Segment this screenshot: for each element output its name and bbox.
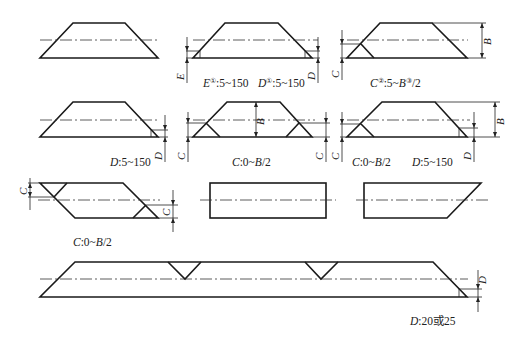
figure-5-trapezoid-double-V: [186, 102, 330, 162]
figure-2-trapezoid-E-D: [185, 23, 320, 83]
figure-7-parallelogram-double-V: [28, 178, 178, 232]
dim-D-fig10: D: [476, 276, 488, 285]
weld-groove-diagram: E D C B D C B C C D B C C D E①:5~150 D①:…: [0, 0, 510, 344]
caption-fig2-D: D①:5~150: [257, 77, 305, 89]
dim-C-fig7-right: C: [160, 208, 172, 216]
captions: E①:5~150 D①:5~150 C②:5~B③/2 D:5~150 C:0~…: [73, 77, 456, 327]
figure-8-rectangle: [200, 183, 336, 218]
figure-9-single-bevel: [356, 183, 490, 218]
caption-fig2-E: E①:5~150: [202, 77, 249, 89]
figure-6-trapezoid-V-D: [340, 102, 500, 162]
caption-fig6-D: D:5~150: [411, 156, 453, 168]
caption-fig5: C:0~B/2: [232, 156, 271, 168]
caption-fig7: C:0~B/2: [73, 236, 112, 248]
dim-C-fig5-left: C: [175, 152, 187, 160]
dim-C-fig3: C: [329, 70, 341, 78]
figure-3-trapezoid-C-B: [340, 23, 486, 80]
figure-10-long-strip: [40, 262, 482, 312]
dim-C-fig7-left: C: [17, 187, 29, 195]
caption-fig10: D:20或25: [409, 315, 456, 327]
caption-fig6-C: C:0~B/2: [352, 156, 391, 168]
caption-fig3: C②:5~B③/2: [370, 77, 421, 89]
dim-D-fig4: D: [152, 152, 164, 161]
caption-fig4: D:5~150: [109, 156, 151, 168]
figure-4-trapezoid-D: [40, 102, 168, 162]
figure-1-plain-trapezoid: [40, 23, 160, 58]
dim-E-fig2: E: [174, 73, 186, 81]
dim-D-fig6: D: [461, 152, 473, 161]
dim-D-fig2: D: [305, 72, 317, 81]
dim-C-fig5-right: C: [313, 152, 325, 160]
dim-B-fig6: B: [494, 118, 506, 125]
dim-B-fig5: B: [254, 118, 266, 125]
dim-C-fig6: C: [329, 152, 341, 160]
dim-B-fig3: B: [481, 38, 493, 45]
